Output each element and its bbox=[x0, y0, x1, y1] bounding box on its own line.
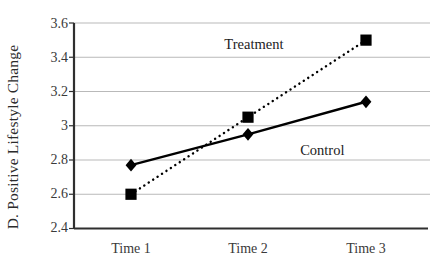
y-axis-tick-labels: 2.4 2.6 2.8 3 3.2 3.4 3.6 bbox=[28, 0, 68, 274]
y-tick-label: 3 bbox=[61, 118, 68, 134]
y-tick-label: 3.4 bbox=[51, 50, 69, 66]
y-tick-label: 2.6 bbox=[51, 186, 69, 202]
y-tick-label: 2.4 bbox=[51, 220, 69, 236]
y-tick-label: 3.6 bbox=[51, 16, 69, 32]
x-tick-label-time-3: Time 3 bbox=[346, 241, 386, 257]
y-axis-title: D. Positive Lifestyle Change bbox=[0, 0, 26, 274]
x-tick-label-time-2: Time 2 bbox=[228, 241, 268, 257]
y-tick-label: 3.2 bbox=[51, 84, 69, 100]
y-tick-label: 2.8 bbox=[51, 152, 69, 168]
series-annotation-control: Control bbox=[300, 141, 344, 158]
chart-figure: D. Positive Lifestyle Change 2.4 2.6 2.8… bbox=[0, 0, 446, 274]
series-annotation-treatment: Treatment bbox=[224, 35, 283, 52]
x-tick-label-time-1: Time 1 bbox=[111, 241, 151, 257]
